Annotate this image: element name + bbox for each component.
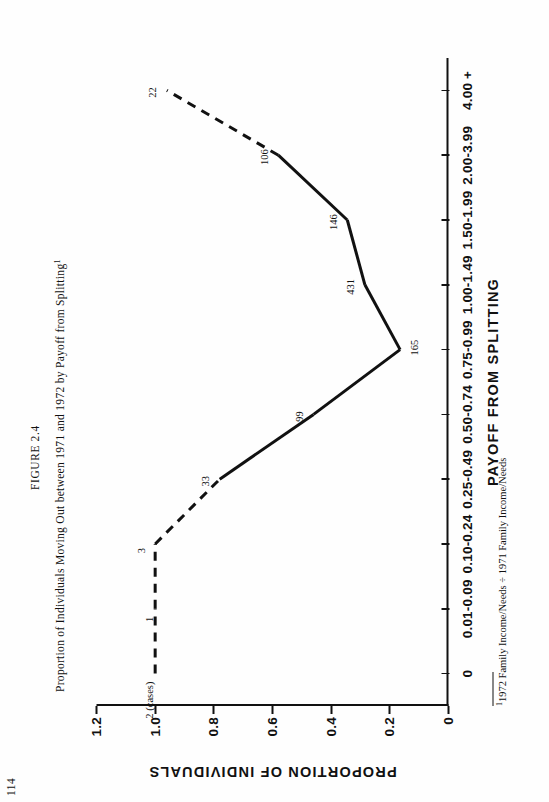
x-tick-label: 0.75-0.99 [459,320,474,379]
series-segment [364,285,399,350]
y-tick-label: 1.0 [147,717,162,736]
x-tick-label: 1.50-1.99 [459,191,474,250]
x-tick-label: 4.00 + [459,71,474,110]
data-point-label: 3 [135,548,146,553]
y-tick [212,706,214,714]
data-point-label: 1 [143,617,154,622]
series-segment [347,220,365,285]
document-page: 114 FIGURE 2.4 Proportion of Individuals… [0,0,549,802]
y-tick [388,706,390,714]
series-segment [278,155,347,220]
y-tick-label: 0 [441,717,456,725]
footnote-marker: 1 [494,702,503,706]
series-segment [166,90,277,155]
y-tick [271,706,273,714]
figure-title-footnote-marker: 1 [52,259,61,263]
x-axis-title: PAYOFF FROM SPLITTING [484,278,500,486]
data-point-label: 106 [258,149,269,165]
figure-label: FIGURE 2.4 [28,425,40,490]
x-tick-label: 0.25-0.49 [459,450,474,509]
x-tick-label: 1.00-1.49 [459,255,474,314]
series-segment [313,350,400,415]
data-point-label: 99 [294,411,305,422]
y-axis-title: PROPORTION OF INDIVIDUALS [148,764,396,780]
y-tick-label: 0.2 [382,717,397,736]
figure-title-text: Proportion of Individuals Moving Out bet… [54,264,66,692]
y-tick-label: 0.8 [206,717,221,736]
x-tick-label: 0.10-0.24 [459,515,474,574]
printed-page-sheet: 114 FIGURE 2.4 Proportion of Individuals… [0,0,549,802]
series-segment [155,479,220,544]
chart-plot-area: 00.01-0.090.10-0.240.25-0.490.50-0.740.7… [96,58,448,706]
x-tick-label: 2.00-3.99 [459,126,474,185]
data-point-label: 33 [200,476,211,487]
data-point-label: 22 [147,87,158,98]
figure-title: Proportion of Individuals Moving Out bet… [52,259,66,692]
data-point-label: 431 [345,279,356,295]
y-tick [95,706,97,714]
figure-footnote: 11972 Family Income/Needs ÷ 1971 Family … [492,458,508,706]
series-segment [219,414,313,479]
footnote-rule [492,672,493,706]
y-tick-label: 1.2 [89,717,104,736]
data-line-series [96,58,448,706]
x-tick-label: 0.50-0.74 [459,385,474,444]
data-point-label: 146 [327,214,338,230]
x-tick-label: 0 [459,670,474,678]
data-point-label: 2 (cases) [143,682,154,719]
y-tick-label: 0.4 [323,717,338,736]
y-tick-label: 0.6 [265,717,280,736]
x-tick-label: 0.01-0.09 [459,579,474,638]
data-point-label: 165 [408,340,419,356]
page-number: 114 [4,778,16,796]
footnote-text: 1972 Family Income/Needs ÷ 1971 Family I… [497,458,508,702]
y-tick [330,706,332,714]
y-tick [447,706,449,714]
